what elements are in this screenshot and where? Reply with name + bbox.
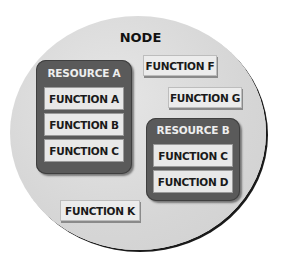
resource-a-title: RESOURCE A bbox=[36, 67, 132, 79]
resource-b: RESOURCE B FUNCTION C FUNCTION D bbox=[146, 118, 240, 201]
function-k: FUNCTION K bbox=[60, 200, 140, 221]
resource-b-title: RESOURCE B bbox=[146, 124, 240, 136]
function-c: FUNCTION C bbox=[44, 139, 124, 162]
function-c-b: FUNCTION C bbox=[153, 144, 233, 167]
function-d: FUNCTION D bbox=[153, 170, 233, 193]
function-b: FUNCTION B bbox=[44, 113, 124, 136]
function-f: FUNCTION F bbox=[143, 55, 217, 76]
resource-a: RESOURCE A FUNCTION A FUNCTION B FUNCTIO… bbox=[36, 60, 132, 174]
function-g: FUNCTION G bbox=[168, 87, 242, 108]
node-title: NODE bbox=[0, 30, 281, 45]
function-a: FUNCTION A bbox=[44, 87, 124, 110]
